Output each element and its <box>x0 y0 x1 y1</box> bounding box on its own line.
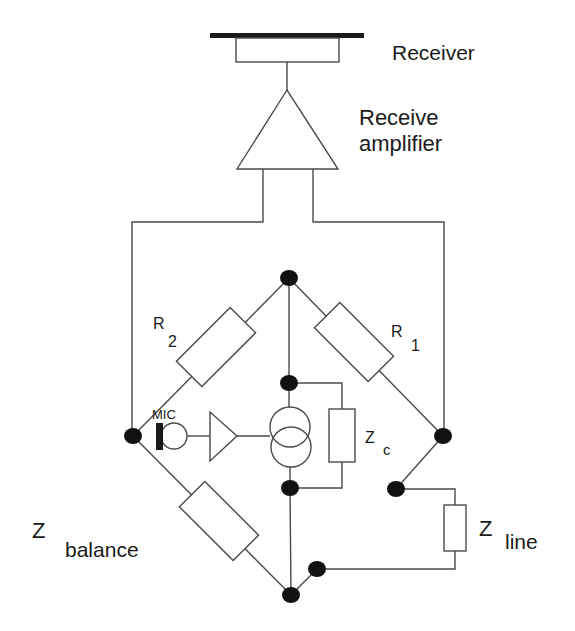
label-zline-sub: line <box>505 530 538 553</box>
impedance-zline <box>444 505 466 551</box>
mic-amplifier <box>210 412 237 461</box>
node-bottom <box>282 587 300 603</box>
node-mid-lower <box>281 480 299 496</box>
label-receive-amp-2: amplifier <box>359 131 442 156</box>
label-zc: Z <box>365 429 375 446</box>
node-left <box>124 428 142 444</box>
label-zline: Z <box>479 516 492 541</box>
node-top <box>280 270 298 286</box>
transformer-icon <box>270 407 311 467</box>
receiver-body <box>236 38 339 62</box>
label-receiver: Receiver <box>392 41 475 64</box>
resistor-r2 <box>176 307 255 386</box>
node-switch-lower <box>308 561 326 577</box>
node-mid-upper <box>280 375 298 391</box>
impedance-zbalance <box>179 481 258 560</box>
impedance-zc <box>329 409 355 462</box>
resistor-r1 <box>314 302 393 381</box>
receiver <box>210 33 364 90</box>
circuit-diagram: Receiver Receive amplifier R 2 R 1 MIC Z… <box>0 0 575 631</box>
label-r1: R <box>391 323 403 340</box>
label-r1-sub: 1 <box>411 337 420 354</box>
label-r2-sub: 2 <box>168 333 177 350</box>
label-r2: R <box>153 315 165 332</box>
label-zc-sub: c <box>383 441 391 458</box>
microphone-icon <box>156 423 187 450</box>
label-mic: MIC <box>152 407 176 422</box>
label-zbalance-sub: balance <box>65 538 139 561</box>
label-zbalance: Z <box>32 518 45 543</box>
node-switch-upper <box>387 481 405 497</box>
label-receive-amp-1: Receive <box>359 105 438 130</box>
receiver-diaphragm <box>210 33 364 38</box>
node-right <box>434 428 452 444</box>
